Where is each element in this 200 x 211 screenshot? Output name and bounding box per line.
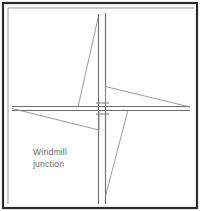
north-west-diagonal-spur xyxy=(78,16,99,107)
east-wedge-upper-edge xyxy=(106,87,191,108)
junction-diagram-canvas: Windmill junction xyxy=(0,0,200,211)
caption-line-2: junction xyxy=(32,159,64,169)
figure-outer-frame xyxy=(3,3,197,208)
horizontal-road xyxy=(12,107,190,111)
south-east-diagonal-spur xyxy=(106,110,129,196)
caption-line-1: Windmill xyxy=(33,147,67,157)
vertical-road xyxy=(99,13,106,204)
windmill-junction-figure: Windmill junction xyxy=(0,0,200,211)
east-slip-road-wedge xyxy=(106,87,191,108)
west-slip-road-wedge xyxy=(12,109,99,131)
west-wedge-lower-edge xyxy=(12,109,99,131)
